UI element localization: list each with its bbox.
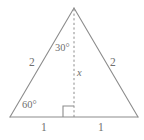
triangle-right-side xyxy=(74,8,138,117)
triangle-diagram: 30° 2 2 60° x 1 1 xyxy=(0,0,144,140)
left-side-length-label: 2 xyxy=(29,57,35,69)
triangle-figure-svg xyxy=(0,0,144,140)
base-right-segment-label: 1 xyxy=(98,122,104,134)
altitude-length-label: x xyxy=(77,68,82,79)
apex-angle-label: 30° xyxy=(55,43,70,54)
right-side-length-label: 2 xyxy=(110,57,116,69)
base-left-angle-label: 60° xyxy=(22,100,37,111)
triangle-left-side xyxy=(10,8,74,117)
right-angle-marker-icon xyxy=(63,106,74,117)
base-left-segment-label: 1 xyxy=(41,122,47,134)
